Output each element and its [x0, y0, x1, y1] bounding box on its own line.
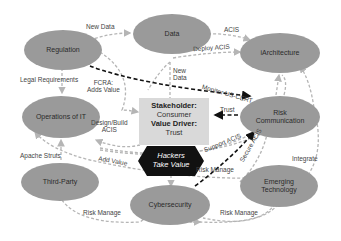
edge-label-design-build-line2: ACIS	[91, 126, 128, 133]
node-operations-it[interactable]: Operations of IT	[22, 96, 100, 138]
edge-label-design-build: Design/Build ACIS	[91, 119, 128, 134]
value-driver-value: Trust	[139, 128, 209, 137]
edge-label-risk-manage-right: Risk Manage	[220, 210, 258, 217]
node-emerging-technology[interactable]: Emerging Technology	[240, 165, 318, 207]
edge-label-new-data-mid: New Data	[173, 67, 187, 82]
node-label: Data	[165, 30, 180, 38]
node-label: Emerging Technology	[257, 178, 301, 193]
hackers-hexagon[interactable]: HackersTake Value	[140, 146, 202, 176]
node-regulation[interactable]: Regulation	[24, 30, 102, 70]
node-third-party[interactable]: Third-Party	[21, 163, 99, 201]
diagram-canvas: Regulation Data iArchitecture Operations…	[0, 0, 341, 241]
edge-label-risk-manage-center: Risk Manage	[196, 167, 234, 174]
value-driver-label: Value Driver:	[151, 119, 197, 128]
node-label: Operations of IT	[36, 113, 86, 121]
edge-label-integrate: Integrate	[292, 156, 318, 163]
edge-label-legal-requirements: Legal Requirements	[20, 77, 78, 84]
edge-label-apache-struts: Apache Struts	[20, 153, 61, 160]
node-label: Third-Party	[43, 178, 78, 186]
edge-label-fcra: FCRA: Adds Value	[87, 79, 120, 94]
stakeholder-label: Stakeholder:	[151, 101, 196, 110]
node-label: iArchitecture	[261, 49, 300, 57]
edge-label-design-build-line1: Design/Build	[91, 119, 128, 126]
edge-label-fcra-line1: FCRA:	[87, 79, 120, 86]
node-label: Cybersecurity	[149, 201, 192, 209]
edge-label-trust: Trust	[220, 107, 235, 114]
hackers-line2: Take Value	[153, 161, 190, 170]
stakeholder-box: Stakeholder: Consumer Value Driver: Trus…	[139, 98, 209, 145]
edge-label-new-data-top: New Data	[86, 24, 115, 31]
node-cybersecurity[interactable]: Cybersecurity	[130, 185, 210, 225]
node-label: Regulation	[46, 46, 79, 54]
edge-label-fcra-line2: Adds Value	[87, 86, 120, 93]
node-label: Risk Communication	[255, 109, 305, 124]
edge-label-new-data-line2: Data	[173, 74, 187, 81]
edge-label-risk-manage-left: Risk Manage	[83, 210, 121, 217]
stakeholder-value: Consumer	[139, 110, 209, 119]
edge-label-acis-top: ACIS	[224, 27, 239, 34]
node-iarchitecture[interactable]: iArchitecture	[240, 33, 320, 73]
edge-label-new-data-line1: New	[173, 67, 187, 74]
